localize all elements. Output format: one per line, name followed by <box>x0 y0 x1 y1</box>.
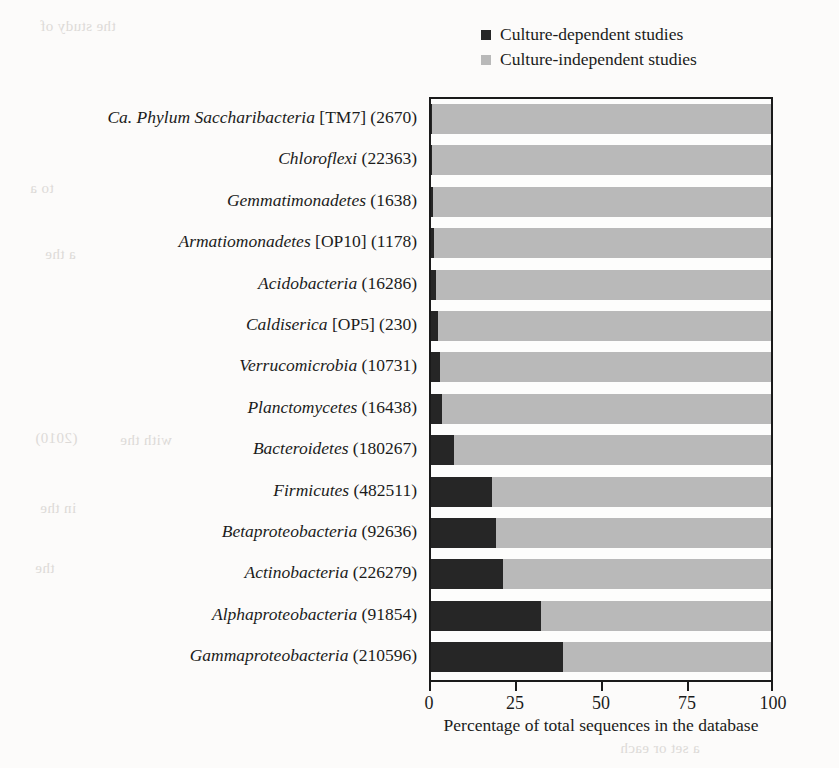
bar-segment-culture-independent <box>563 642 771 672</box>
x-axis-ticks <box>429 682 773 692</box>
bar-segment-culture-dependent <box>431 477 492 507</box>
y-axis-label: Alphaproteobacteria (91854) <box>0 599 423 629</box>
x-axis-tick-label: 25 <box>506 692 524 714</box>
bar-row <box>431 145 771 175</box>
y-axis-labels: Ca. Phylum Saccharibacteria [TM7] (2670)… <box>0 97 423 682</box>
x-axis-tick <box>687 682 689 691</box>
bar-row <box>431 352 771 382</box>
bar-row <box>431 477 771 507</box>
bar-row <box>431 435 771 465</box>
bar-segment-culture-independent <box>433 187 771 217</box>
y-axis-label: Ca. Phylum Saccharibacteria [TM7] (2670) <box>0 102 423 132</box>
bar-segment-culture-dependent <box>431 352 440 382</box>
bar-segment-culture-dependent <box>431 394 442 424</box>
bleed-text: a set or each <box>620 740 700 757</box>
x-axis-tick <box>429 682 431 691</box>
bar-segment-culture-independent <box>454 435 771 465</box>
bar-segment-culture-independent <box>503 559 771 589</box>
bar-row <box>431 559 771 589</box>
bar-segment-culture-independent <box>434 228 771 258</box>
legend-swatch-independent-icon <box>481 55 491 65</box>
bar-segment-culture-dependent <box>431 435 454 465</box>
bar-segment-culture-dependent <box>431 518 496 548</box>
x-axis-tick-label: 75 <box>678 692 696 714</box>
bar-row <box>431 104 771 134</box>
figure-page: the study ofinto aof the cultureda theth… <box>0 0 839 768</box>
bar-row <box>431 394 771 424</box>
x-axis-title: Percentage of total sequences in the dat… <box>429 715 773 736</box>
x-axis-tick <box>771 682 773 691</box>
legend-swatch-dependent-icon <box>481 30 491 40</box>
plot-area <box>429 97 773 682</box>
bar-rows <box>431 99 771 680</box>
bar-segment-culture-dependent <box>431 311 438 341</box>
bar-segment-culture-independent <box>440 352 771 382</box>
bar-row <box>431 601 771 631</box>
chart-legend: Culture-dependent studies Culture-indepe… <box>481 22 697 72</box>
bar-row <box>431 228 771 258</box>
bar-row <box>431 518 771 548</box>
bar-segment-culture-independent <box>438 311 771 341</box>
bleed-text: the study of <box>40 18 116 35</box>
bar-segment-culture-independent <box>496 518 771 548</box>
bar-segment-culture-independent <box>442 394 771 424</box>
y-axis-label: Actinobacteria (226279) <box>0 557 423 587</box>
bar-row <box>431 187 771 217</box>
y-axis-label: Caldiserica [OP5] (230) <box>0 309 423 339</box>
y-axis-label: Gemmatimonadetes (1638) <box>0 185 423 215</box>
y-axis-label: Planctomycetes (16438) <box>0 392 423 422</box>
y-axis-label: Chloroflexi (22363) <box>0 143 423 173</box>
legend-label-culture-dependent: Culture-dependent studies <box>500 26 683 44</box>
x-axis-tick-label: 100 <box>760 692 787 714</box>
x-axis-tick-label: 50 <box>592 692 610 714</box>
x-axis-tick <box>515 682 517 691</box>
x-axis-tick-labels: 0255075100 <box>429 692 773 716</box>
legend-item-culture-dependent: Culture-dependent studies <box>481 22 697 47</box>
y-axis-label: Verrucomicrobia (10731) <box>0 350 423 380</box>
legend-item-culture-independent: Culture-independent studies <box>481 47 697 72</box>
y-axis-label: Gammaproteobacteria (210596) <box>0 640 423 670</box>
bar-segment-culture-dependent <box>431 601 541 631</box>
y-axis-label: Armatiomonadetes [OP10] (1178) <box>0 226 423 256</box>
x-axis-tick-label: 0 <box>425 692 434 714</box>
bar-segment-culture-dependent <box>431 642 563 672</box>
bar-row <box>431 311 771 341</box>
bar-row <box>431 270 771 300</box>
bar-segment-culture-independent <box>541 601 771 631</box>
bar-segment-culture-independent <box>492 477 771 507</box>
y-axis-label: Bacteroidetes (180267) <box>0 433 423 463</box>
bar-row <box>431 642 771 672</box>
y-axis-label: Acidobacteria (16286) <box>0 268 423 298</box>
x-axis-tick <box>601 682 603 691</box>
bar-segment-culture-dependent <box>431 559 503 589</box>
bar-segment-culture-independent <box>432 104 771 134</box>
y-axis-label: Firmicutes (482511) <box>0 475 423 505</box>
y-axis-label: Betaproteobacteria (92636) <box>0 516 423 546</box>
bar-segment-culture-independent <box>432 145 771 175</box>
bar-segment-culture-independent <box>436 270 771 300</box>
legend-label-culture-independent: Culture-independent studies <box>500 51 697 69</box>
